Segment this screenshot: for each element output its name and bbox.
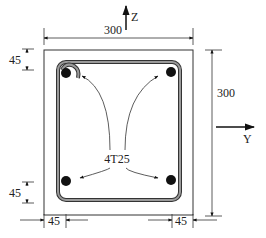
left-cover-value: 45 [48,214,60,228]
right-height-dimension [205,50,222,216]
y-axis-label: Y [243,132,252,146]
right-cover-value: 45 [175,214,187,228]
bottom-cover-dimension [22,182,34,203]
bottom-cover-value: 45 [9,186,21,200]
rebar-top-left [61,68,71,78]
right-height-value: 300 [217,86,235,100]
top-cover-dimension [22,49,34,70]
reinforcement-label: 4T25 [104,152,129,166]
rebar-bottom-left [61,176,71,186]
top-cover-value: 45 [9,53,21,67]
rebar-bottom-right [166,175,176,185]
column-section-diagram: 4T25 Z Y 300 300 45 45 45 [0,0,266,238]
rebar-top-right [166,67,176,77]
top-width-value: 300 [104,23,122,37]
z-axis-label: Z [131,10,138,24]
stirrup [58,62,180,200]
